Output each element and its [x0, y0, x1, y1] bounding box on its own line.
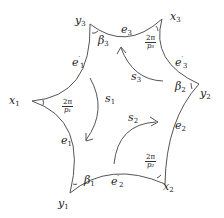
arrow-s3 — [121, 48, 163, 81]
angle-arc-y3 — [92, 31, 98, 33]
arrow-label-s2: s2 — [128, 112, 138, 125]
angle-2pi-p2: 2πp₂ — [145, 154, 156, 170]
angle-arc-y1 — [73, 184, 77, 185]
angle-2pi-p3: 2πp₃ — [145, 35, 156, 51]
edge-label-e3: e3 — [121, 24, 132, 37]
hexagon-diagram: x1 x2 x3 y1 y2 y3 e1 e′1 e2 e′2 e3 e′3 β… — [0, 0, 224, 218]
vertex-y3: y3 — [75, 15, 86, 28]
vertex-x2: x2 — [163, 181, 174, 194]
angle-beta1: β1 — [84, 175, 95, 188]
edge-label-e2-prime: e′2 — [111, 175, 124, 189]
vertex-x3: x3 — [170, 11, 181, 24]
vertex-y1: y1 — [58, 198, 69, 211]
edge-label-e2: e2 — [175, 120, 186, 133]
angle-2pi-p1: 2πp₁ — [62, 99, 73, 115]
arrow-label-s3: s3 — [131, 71, 141, 84]
vertex-y2: y2 — [200, 88, 211, 101]
vertex-x1: x1 — [9, 95, 20, 108]
angle-arc-x2 — [157, 175, 161, 178]
edge-label-e3-prime: e′3 — [175, 56, 188, 70]
arrow-s2-head — [150, 117, 158, 126]
edge-label-e1: e1 — [61, 135, 72, 148]
arrow-label-s1: s1 — [105, 93, 115, 106]
angle-beta3: β3 — [98, 35, 109, 48]
edge-e3-prime — [160, 19, 199, 84]
angle-arc-x1 — [43, 100, 44, 105]
edge-label-e1-prime: e′1 — [72, 56, 85, 70]
angle-arc-y2 — [191, 83, 192, 89]
edge-e2 — [165, 84, 199, 184]
angle-arc-x3 — [156, 26, 158, 31]
angle-beta2: β2 — [175, 81, 186, 94]
arrow-s1 — [86, 78, 98, 140]
